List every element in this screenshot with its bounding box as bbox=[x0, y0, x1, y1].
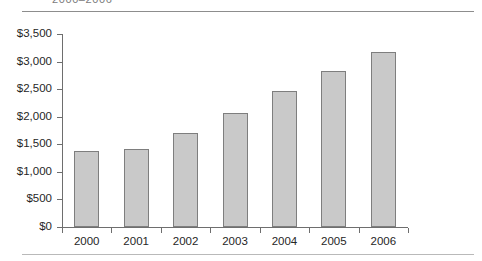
y-axis-tick bbox=[57, 89, 62, 90]
y-axis-tick-label: $500 bbox=[26, 193, 52, 205]
bar bbox=[223, 113, 248, 227]
bar bbox=[74, 151, 99, 227]
y-axis-tick-label: $1,000 bbox=[17, 166, 52, 178]
x-axis-tick-label: 2004 bbox=[260, 236, 308, 248]
bar-chart: $0$500$1,000$1,500$2,000$2,500$3,000$3,5… bbox=[0, 0, 482, 261]
x-axis-tick bbox=[359, 228, 360, 233]
x-axis-tick-label: 2003 bbox=[211, 236, 259, 248]
x-axis-line bbox=[62, 227, 408, 228]
y-axis-tick bbox=[57, 62, 62, 63]
x-axis-tick-label: 2000 bbox=[63, 236, 111, 248]
y-axis-tick bbox=[57, 172, 62, 173]
bar bbox=[371, 52, 396, 227]
bar bbox=[272, 91, 297, 227]
x-axis-tick bbox=[408, 228, 409, 233]
y-axis-tick-label: $0 bbox=[39, 221, 52, 233]
x-axis-tick bbox=[260, 228, 261, 233]
y-axis-tick-label: $1,500 bbox=[17, 138, 52, 150]
bar bbox=[124, 149, 149, 227]
x-axis-tick bbox=[210, 228, 211, 233]
x-axis-tick-label: 2006 bbox=[359, 236, 407, 248]
y-axis-tick bbox=[57, 34, 62, 35]
y-axis-tick-label: $3,500 bbox=[17, 28, 52, 40]
x-axis-tick-label: 2001 bbox=[112, 236, 160, 248]
x-axis-tick-label: 2005 bbox=[310, 236, 358, 248]
y-axis-tick-label: $2,000 bbox=[17, 111, 52, 123]
y-axis-tick bbox=[57, 144, 62, 145]
y-axis-tick-label: $2,500 bbox=[17, 83, 52, 95]
y-axis-tick-label: $3,000 bbox=[17, 56, 52, 68]
x-axis-tick bbox=[111, 228, 112, 233]
x-axis-tick bbox=[161, 228, 162, 233]
x-axis-tick bbox=[62, 228, 63, 233]
y-axis-line bbox=[62, 34, 63, 228]
bottom-horizontal-rule bbox=[22, 254, 474, 255]
y-axis-tick bbox=[57, 199, 62, 200]
x-axis-tick-label: 2002 bbox=[162, 236, 210, 248]
bar bbox=[321, 71, 346, 227]
bar bbox=[173, 133, 198, 227]
y-axis-tick bbox=[57, 117, 62, 118]
x-axis-tick bbox=[309, 228, 310, 233]
